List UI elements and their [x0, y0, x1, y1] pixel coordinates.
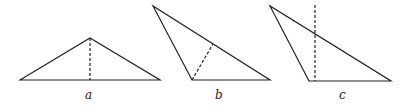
triangle-b [153, 6, 270, 80]
altitude-b [192, 44, 213, 80]
triangle-a [20, 38, 160, 80]
label-b: b [215, 88, 223, 102]
triangle-c [270, 5, 391, 81]
triangles-diagram [0, 0, 412, 107]
label-c: c [339, 88, 346, 102]
label-a: a [85, 88, 92, 102]
